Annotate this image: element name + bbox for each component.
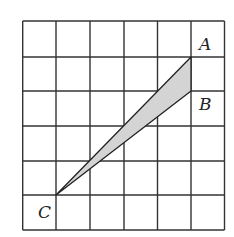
label-c: C	[38, 202, 51, 222]
label-a: A	[197, 34, 211, 54]
triangle-grid-diagram: A B C	[0, 0, 234, 237]
label-b: B	[198, 94, 212, 114]
